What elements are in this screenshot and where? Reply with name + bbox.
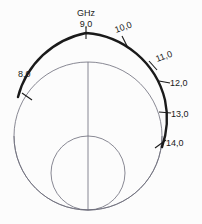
label-13: 13,0 — [171, 109, 189, 119]
label-11: 11,0 — [154, 49, 173, 64]
smith-chart-figure: GHz 9,0 8,0 10,0 11,0 12,0 13,0 14,0 — [0, 0, 202, 224]
tick-mark-13 — [159, 112, 171, 113]
label-14: 14,0 — [166, 138, 184, 148]
smith-grid — [14, 62, 162, 210]
label-10: 10,0 — [113, 19, 133, 34]
trace-arc-path — [18, 33, 167, 147]
label-9: 9,0 — [80, 19, 93, 29]
label-8: 8,0 — [18, 69, 31, 79]
unit-label: GHz — [77, 8, 96, 18]
smith-chart-svg: GHz 9,0 8,0 10,0 11,0 12,0 13,0 14,0 — [0, 0, 202, 224]
frequency-trace — [18, 33, 167, 147]
tick-mark-14 — [155, 140, 166, 148]
tick-mark-12 — [159, 81, 170, 83]
trace-tick-marks — [22, 27, 171, 148]
label-12: 12,0 — [170, 78, 188, 88]
trace-labels: GHz 9,0 8,0 10,0 11,0 12,0 13,0 14,0 — [18, 8, 189, 148]
